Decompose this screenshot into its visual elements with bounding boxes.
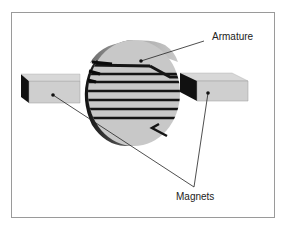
right-magnet xyxy=(180,73,248,101)
armature-magnets-diagram: Armature Magnets xyxy=(0,0,291,227)
armature-label: Armature xyxy=(212,31,254,42)
left-magnet xyxy=(21,74,80,103)
magnets-label: Magnets xyxy=(176,191,214,202)
